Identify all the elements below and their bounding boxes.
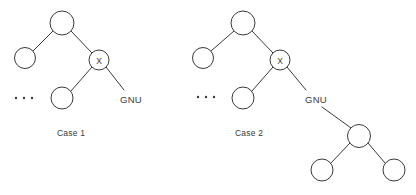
tree-group-case-1: XGNUCase 1 bbox=[15, 11, 143, 138]
gnu-label-case-1: GNU bbox=[120, 94, 142, 105]
gnu-label-case-2: GNU bbox=[305, 94, 327, 105]
node-gnu-subtree-left-leaf bbox=[311, 159, 333, 181]
tree-group-case-2: XGNUCase 2 bbox=[193, 11, 406, 181]
edge-x-node-to-gnu bbox=[287, 67, 306, 90]
ellipsis-dot bbox=[197, 96, 199, 98]
node-root bbox=[231, 11, 255, 35]
node-left-child bbox=[193, 48, 214, 69]
ellipsis-dot bbox=[15, 97, 17, 99]
edge-root-to-x-node bbox=[252, 31, 273, 53]
node-root bbox=[50, 11, 74, 35]
node-x-left-child bbox=[51, 87, 73, 109]
caption-case-1: Case 1 bbox=[57, 128, 85, 138]
tree-diagram-canvas: XGNUCase 1XGNUCase 2 bbox=[0, 0, 416, 195]
edge-x-node-to-gnu bbox=[106, 67, 124, 90]
node-label-x-node: X bbox=[96, 56, 102, 66]
ellipsis-case-1 bbox=[15, 97, 33, 99]
node-left-child bbox=[15, 48, 36, 69]
ellipsis-dot bbox=[23, 97, 25, 99]
node-label-x-node: X bbox=[277, 56, 283, 66]
caption-case-2: Case 2 bbox=[235, 128, 263, 138]
edge-root-to-x-node bbox=[71, 31, 92, 53]
node-x-left-child bbox=[232, 87, 254, 109]
edge-root-to-left-child bbox=[211, 31, 234, 51]
node-gnu-subtree-root bbox=[348, 125, 371, 148]
ellipsis-dot bbox=[205, 96, 207, 98]
ellipsis-dot bbox=[31, 97, 33, 99]
edge-subtree-root-to-left-leaf bbox=[331, 143, 350, 163]
edge-subtree-root-to-right-leaf bbox=[368, 143, 385, 163]
ellipsis-dot bbox=[213, 96, 215, 98]
edge-root-to-left-child bbox=[33, 31, 53, 51]
ellipsis-case-2 bbox=[197, 96, 215, 98]
edge-x-node-to-left-child bbox=[252, 67, 273, 91]
node-gnu-subtree-right-leaf bbox=[383, 159, 405, 181]
edge-x-node-to-left-child bbox=[71, 67, 92, 91]
edge-gnu-to-subtree-root bbox=[322, 107, 351, 128]
